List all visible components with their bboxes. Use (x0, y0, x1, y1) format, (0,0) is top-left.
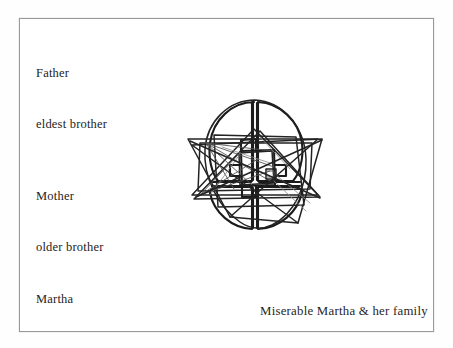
label-mother-line2: older brother (36, 239, 104, 256)
paper-frame: Father eldest brother Mother older broth… (19, 18, 434, 332)
label-martha: Martha (36, 257, 73, 342)
family-sketch-drawing (170, 77, 340, 242)
family-sketch-svg (170, 77, 340, 242)
label-father-line2: eldest brother (36, 116, 107, 133)
caption-text: Miserable Martha & her family (260, 304, 428, 319)
label-mother-line1: Mother (36, 188, 104, 205)
label-father: Father eldest brother (36, 31, 107, 167)
label-martha-line1: Martha (36, 291, 73, 308)
label-father-line1: Father (36, 65, 107, 82)
screenshot-root: Father eldest brother Mother older broth… (0, 0, 453, 348)
